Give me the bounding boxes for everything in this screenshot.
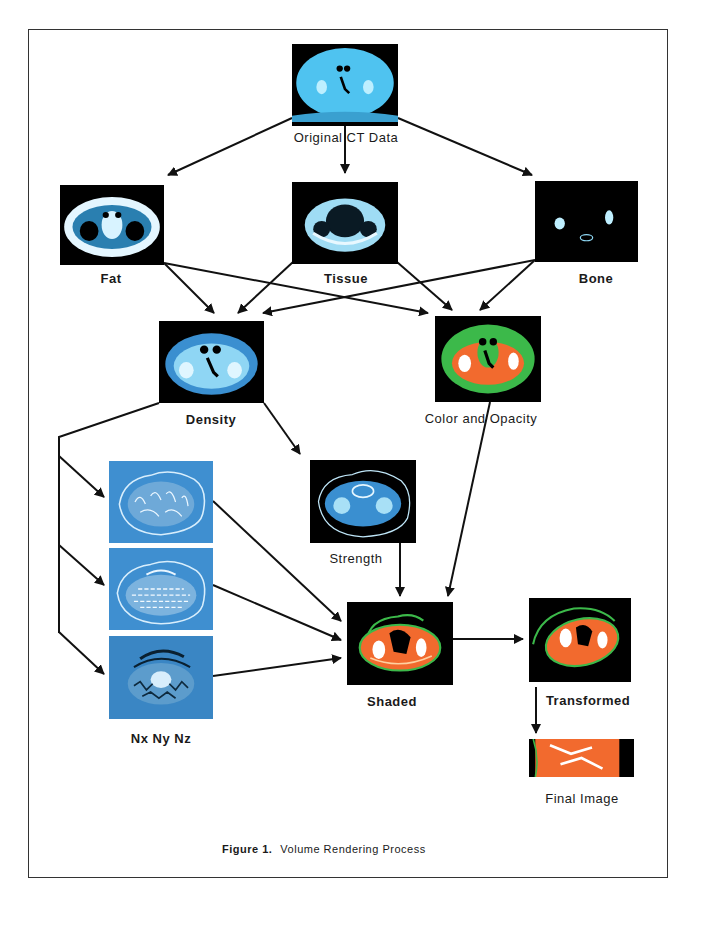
figure-caption-label: Figure 1. xyxy=(222,843,272,855)
final-image-label: Final Image xyxy=(545,791,618,806)
fat-image xyxy=(60,185,164,265)
figure-caption-text: Volume Rendering Process xyxy=(280,843,425,855)
nx-image xyxy=(109,461,213,543)
edge-color-shaded xyxy=(448,402,490,596)
transformed-label: Transformed xyxy=(546,693,630,708)
bone-image xyxy=(535,181,638,262)
edge-tissue-density xyxy=(238,262,293,313)
edge-density-strength xyxy=(264,403,300,454)
shaded-image xyxy=(347,602,453,685)
edge-ny-shaded xyxy=(213,585,341,640)
original-ct-label: Original CT Data xyxy=(294,130,399,145)
figure-caption: Figure 1.Volume Rendering Process xyxy=(222,843,426,855)
fat-label: Fat xyxy=(101,271,122,286)
strength-label: Strength xyxy=(329,551,382,566)
shaded-label: Shaded xyxy=(367,694,417,709)
edge-original-bone xyxy=(398,118,532,175)
color-opacity-image xyxy=(435,316,541,402)
nz-image xyxy=(109,636,213,719)
edge-density-ny xyxy=(59,545,104,585)
density-image xyxy=(159,321,264,403)
density-label: Density xyxy=(186,412,236,427)
tissue-image xyxy=(292,182,398,264)
edge-density-nx xyxy=(59,456,104,497)
edge-bone-color xyxy=(480,260,535,310)
edge-nz-shaded xyxy=(213,658,341,676)
strength-image xyxy=(310,460,416,543)
edge-density-nz xyxy=(59,632,104,674)
ny-image xyxy=(109,548,213,630)
normals-label: Nx Ny Nz xyxy=(131,731,191,746)
original-ct-image xyxy=(292,44,398,126)
transformed-image xyxy=(529,598,631,682)
edge-original-fat xyxy=(168,118,292,175)
color-opacity-label: Color and Opacity xyxy=(425,411,538,426)
bone-label: Bone xyxy=(579,271,614,286)
tissue-label: Tissue xyxy=(324,271,368,286)
edge-bone-density xyxy=(263,260,535,313)
final-image xyxy=(529,739,634,777)
